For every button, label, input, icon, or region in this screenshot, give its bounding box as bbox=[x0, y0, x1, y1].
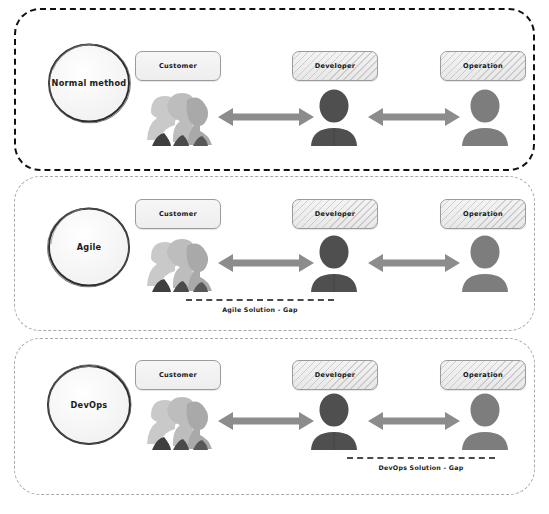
role-label-customer: Customer bbox=[159, 62, 197, 70]
method-label-agile: Agile bbox=[33, 204, 145, 290]
person-icon-operation bbox=[457, 234, 513, 292]
double-headed-arrow-icon-developer-operation bbox=[368, 106, 460, 128]
gap-line-devops bbox=[347, 457, 495, 459]
person-icon-developer bbox=[306, 234, 362, 292]
method-circle-devops: DevOps bbox=[33, 362, 145, 448]
role-label-developer: Developer bbox=[315, 371, 356, 379]
gap-line-agile bbox=[186, 299, 334, 301]
person-icon-operation bbox=[457, 392, 513, 450]
double-headed-arrow-icon-customer-developer bbox=[218, 252, 314, 274]
double-headed-arrow-icon-developer-operation bbox=[368, 410, 460, 432]
role-box-operation-devops: Operation bbox=[440, 360, 526, 390]
person-icon-developer bbox=[306, 88, 362, 146]
people-group-icon bbox=[147, 392, 219, 452]
method-label-normal-method: Normal method bbox=[33, 40, 145, 126]
role-box-developer-normal: Developer bbox=[292, 51, 378, 81]
person-icon-developer bbox=[306, 392, 362, 450]
role-label-operation: Operation bbox=[463, 210, 503, 218]
role-box-developer-devops: Developer bbox=[292, 360, 378, 390]
role-label-developer: Developer bbox=[315, 62, 356, 70]
method-label-devops: DevOps bbox=[33, 362, 145, 448]
role-box-developer-agile: Developer bbox=[292, 199, 378, 229]
role-box-customer-devops: Customer bbox=[135, 360, 221, 390]
role-box-operation-normal: Operation bbox=[440, 51, 526, 81]
role-label-operation: Operation bbox=[463, 371, 503, 379]
people-group-icon bbox=[147, 88, 219, 148]
double-headed-arrow-icon-customer-developer bbox=[218, 410, 314, 432]
double-headed-arrow-icon-customer-developer bbox=[218, 106, 314, 128]
person-icon-operation bbox=[457, 88, 513, 146]
role-box-customer-agile: Customer bbox=[135, 199, 221, 229]
role-box-customer-normal: Customer bbox=[135, 51, 221, 81]
devops-comparison-diagram: Normal method Customer Developer Operati… bbox=[0, 0, 549, 514]
method-circle-normal-method: Normal method bbox=[33, 40, 145, 126]
role-label-operation: Operation bbox=[463, 62, 503, 70]
role-box-operation-agile: Operation bbox=[440, 199, 526, 229]
gap-label-devops: DevOps Solution - Gap bbox=[347, 464, 495, 471]
role-label-customer: Customer bbox=[159, 371, 197, 379]
people-group-icon bbox=[147, 234, 219, 294]
role-label-developer: Developer bbox=[315, 210, 356, 218]
double-headed-arrow-icon-developer-operation bbox=[368, 252, 460, 274]
method-circle-agile: Agile bbox=[33, 204, 145, 290]
gap-label-agile: Agile Solution - Gap bbox=[186, 306, 334, 313]
role-label-customer: Customer bbox=[159, 210, 197, 218]
